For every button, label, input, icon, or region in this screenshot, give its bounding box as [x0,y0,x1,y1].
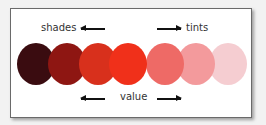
arrow-right-icon [157,28,181,30]
arrow-right-icon [157,98,181,100]
swatch-light-tint [146,43,184,85]
shades-label: shades [41,23,76,33]
arrow-left-icon [81,98,105,100]
tints-label: tints [186,23,208,33]
swatch-base-hue [109,43,147,85]
arrow-left-icon [81,28,105,30]
value-label: value [120,92,147,102]
